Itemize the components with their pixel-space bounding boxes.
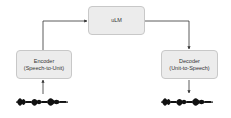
decoder-title: Decoder — [179, 58, 200, 65]
ulm-label: uLM — [111, 17, 122, 24]
encoder-title: Encoder — [34, 58, 55, 65]
decoder-node: Decoder (Unit-to-Speech) — [161, 50, 218, 79]
ulm-node: uLM — [88, 6, 145, 35]
output-waveform-icon — [161, 98, 213, 106]
encoder-node: Encoder (Speech-to-Unit) — [16, 50, 72, 79]
ulm-to-decoder-arrow — [145, 21, 189, 49]
input-waveform-icon — [16, 98, 68, 106]
decoder-subtitle: (Unit-to-Speech) — [169, 65, 209, 72]
encoder-to-ulm-arrow — [43, 21, 87, 50]
encoder-subtitle: (Speech-to-Unit) — [24, 65, 64, 72]
